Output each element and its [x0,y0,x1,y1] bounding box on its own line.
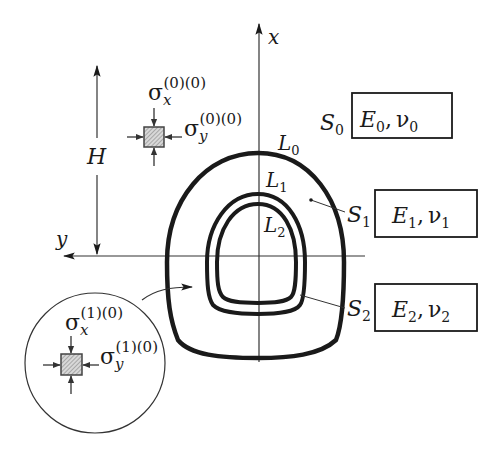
region-s0: S0 E0,ν0 [320,93,452,138]
label-l1: L1 [265,168,288,195]
props-text-s2: E2,ν2 [391,297,450,325]
far-field-stress-element: σx(0)(0) σy(0)(0) [127,74,242,166]
leader-s1 [311,200,345,212]
depth-dimension: H [86,66,107,254]
lining-diagram: x y H L0 L1 L2 S0 E0,ν0 [0,0,504,459]
props-text-s1: E1,ν1 [391,203,450,231]
leader-s1-dot [309,198,313,202]
y-axis-label: y [55,227,68,251]
sigma-y-inset: σy(1)(0) [100,338,158,373]
stress-square-inset [61,354,82,375]
contour-l2 [217,204,296,303]
props-text-s0: E0,ν0 [359,107,418,135]
label-s0: S0 [320,110,344,138]
region-s2: S2 E2,ν2 [347,284,477,331]
sigma-y-far: σy(0)(0) [184,110,242,145]
props-box-s1 [375,190,477,237]
label-s1: S1 [347,202,371,230]
sigma-x-inset: σx(1)(0) [65,304,123,339]
props-box-s2 [375,284,477,331]
h-label: H [86,144,107,169]
leader-s2 [300,295,345,308]
region-s1: S1 E1,ν1 [347,190,477,237]
x-axis-label: x [268,25,279,49]
inset-detail: σx(1)(0) σy(1)(0) [25,287,192,433]
sigma-x-far: σx(0)(0) [148,74,206,109]
stress-square-far [144,127,164,147]
label-l0: L0 [277,131,300,158]
label-s2: S2 [347,296,371,324]
contour-labels: L0 L1 L2 [263,131,300,240]
